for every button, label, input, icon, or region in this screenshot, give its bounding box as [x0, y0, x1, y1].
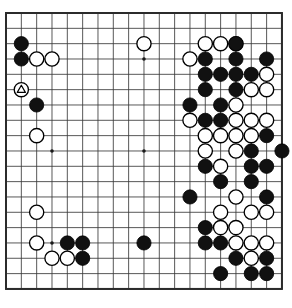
white-stone[interactable] — [45, 52, 59, 66]
white-stone[interactable] — [30, 52, 44, 66]
white-stone[interactable] — [260, 67, 274, 81]
black-stone[interactable] — [214, 175, 228, 189]
black-stone[interactable] — [244, 159, 258, 173]
black-stone[interactable] — [214, 267, 228, 281]
white-stone[interactable] — [45, 251, 59, 265]
white-stone[interactable] — [30, 205, 44, 219]
black-stone[interactable] — [275, 144, 289, 158]
white-stone[interactable] — [183, 52, 197, 66]
white-stone[interactable] — [198, 37, 212, 51]
black-stone[interactable] — [214, 236, 228, 250]
white-stone[interactable] — [260, 83, 274, 97]
white-stone[interactable] — [30, 236, 44, 250]
black-stone[interactable] — [183, 98, 197, 112]
black-stone[interactable] — [198, 52, 212, 66]
white-stone[interactable] — [198, 129, 212, 143]
black-stone[interactable] — [14, 52, 28, 66]
black-stone[interactable] — [30, 98, 44, 112]
white-stone[interactable] — [60, 251, 74, 265]
white-stone[interactable] — [30, 129, 44, 143]
white-stone[interactable] — [260, 236, 274, 250]
white-stone[interactable] — [229, 190, 243, 204]
black-stone[interactable] — [229, 83, 243, 97]
white-stone[interactable] — [244, 113, 258, 127]
black-stone[interactable] — [229, 37, 243, 51]
black-stone[interactable] — [14, 37, 28, 51]
star-point — [142, 149, 146, 153]
black-stone[interactable] — [198, 236, 212, 250]
white-stone[interactable] — [229, 113, 243, 127]
white-stone[interactable] — [183, 113, 197, 127]
white-stone[interactable] — [229, 129, 243, 143]
white-stone[interactable] — [214, 159, 228, 173]
stones-layer[interactable] — [14, 37, 289, 281]
star-point — [142, 57, 146, 61]
black-stone[interactable] — [76, 236, 90, 250]
white-stone[interactable] — [260, 205, 274, 219]
black-stone[interactable] — [137, 236, 151, 250]
black-stone[interactable] — [244, 175, 258, 189]
black-stone[interactable] — [214, 98, 228, 112]
goban-canvas[interactable] — [0, 0, 292, 308]
black-stone[interactable] — [198, 113, 212, 127]
black-stone[interactable] — [183, 190, 197, 204]
white-stone[interactable] — [244, 205, 258, 219]
white-stone[interactable] — [260, 113, 274, 127]
black-stone[interactable] — [198, 221, 212, 235]
black-stone[interactable] — [244, 67, 258, 81]
white-stone[interactable] — [229, 221, 243, 235]
white-stone[interactable] — [214, 129, 228, 143]
black-stone[interactable] — [244, 144, 258, 158]
black-stone[interactable] — [260, 159, 274, 173]
black-stone[interactable] — [229, 67, 243, 81]
white-stone[interactable] — [244, 236, 258, 250]
white-stone[interactable] — [244, 129, 258, 143]
white-stone[interactable] — [198, 144, 212, 158]
white-stone[interactable] — [229, 98, 243, 112]
white-stone[interactable] — [214, 205, 228, 219]
black-stone[interactable] — [198, 83, 212, 97]
black-stone[interactable] — [198, 159, 212, 173]
black-stone[interactable] — [260, 52, 274, 66]
white-stone[interactable] — [214, 37, 228, 51]
black-stone[interactable] — [76, 251, 90, 265]
black-stone[interactable] — [260, 267, 274, 281]
white-stone[interactable] — [244, 83, 258, 97]
white-stone[interactable] — [229, 144, 243, 158]
star-point — [50, 149, 54, 153]
black-stone[interactable] — [260, 190, 274, 204]
go-board[interactable] — [0, 0, 292, 308]
white-stone[interactable] — [137, 37, 151, 51]
black-stone[interactable] — [198, 67, 212, 81]
black-stone[interactable] — [214, 67, 228, 81]
black-stone[interactable] — [244, 267, 258, 281]
white-stone[interactable] — [214, 221, 228, 235]
go-diagram-root — [0, 0, 292, 308]
black-stone[interactable] — [214, 113, 228, 127]
black-stone[interactable] — [260, 129, 274, 143]
black-stone[interactable] — [60, 236, 74, 250]
black-stone[interactable] — [229, 52, 243, 66]
black-stone[interactable] — [260, 251, 274, 265]
white-stone[interactable] — [229, 236, 243, 250]
black-stone[interactable] — [229, 251, 243, 265]
white-stone[interactable] — [244, 251, 258, 265]
star-point — [50, 241, 54, 245]
